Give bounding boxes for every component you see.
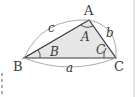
side-c-label: c bbox=[48, 21, 55, 35]
vertex-a-label: A bbox=[83, 3, 94, 18]
vertex-c-label: C bbox=[114, 59, 124, 74]
angle-c-label: C bbox=[96, 43, 105, 57]
vertex-b-label: B bbox=[13, 59, 23, 74]
angle-b-label: B bbox=[49, 45, 59, 59]
triangle-diagram: A B C a b c A B C bbox=[0, 0, 136, 97]
left-edge-marks bbox=[1, 73, 3, 94]
side-a-label: a bbox=[66, 61, 73, 75]
angle-a-label: A bbox=[80, 30, 90, 44]
side-b-label: b bbox=[106, 26, 114, 40]
